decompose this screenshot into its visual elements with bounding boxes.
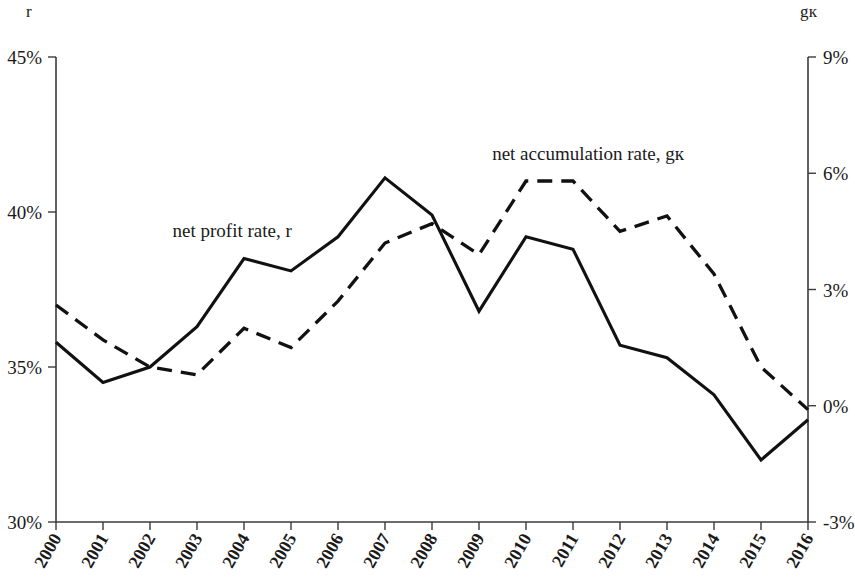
right-axis-tick-label: 6%	[823, 163, 849, 184]
x-axis-tick-label: 2000	[30, 530, 65, 571]
x-axis-tick-label: 2005	[265, 530, 300, 571]
left-axis-tick-label: 45%	[7, 47, 42, 68]
x-axis-tick-label: 2015	[735, 530, 770, 571]
x-axis-tick-label: 2008	[406, 530, 441, 571]
data-series-group	[56, 178, 808, 460]
x-axis-tick-label: 2012	[594, 530, 629, 571]
right-axis: -3%0%3%6%9%	[808, 47, 855, 533]
x-axis-tick-label: 2010	[500, 530, 535, 571]
x-axis-tick-label: 2011	[548, 530, 583, 570]
x-axis-tick-label: 2016	[782, 530, 817, 571]
x-axis-tick-label: 2002	[124, 530, 159, 571]
x-axis-tick-label: 2006	[312, 530, 347, 571]
series-line-solid	[56, 178, 808, 460]
left-axis-tick-label: 30%	[7, 512, 42, 533]
left-axis: 30%35%40%45%	[7, 47, 56, 533]
x-axis-tick-label: 2001	[77, 530, 112, 571]
line-chart-plot: 30%35%40%45% -3%0%3%6%9% 200020012002200…	[0, 0, 855, 578]
x-axis: 2000200120022003200420052006200720082009…	[30, 522, 817, 571]
right-axis-tick-label: 9%	[823, 47, 849, 68]
x-axis-tick-label: 2007	[359, 530, 394, 571]
right-axis-tick-label: 0%	[823, 396, 849, 417]
left-axis-tick-label: 35%	[7, 357, 42, 378]
series-annotation-label: net accumulation rate, gк	[492, 143, 685, 164]
right-axis-tick-label: 3%	[823, 280, 849, 301]
right-axis-tick-label: -3%	[823, 512, 855, 533]
x-axis-tick-label: 2003	[171, 530, 206, 571]
chart-container: r gк 30%35%40%45% -3%0%3%6%9% 2000200120…	[0, 0, 855, 578]
left-axis-tick-label: 40%	[7, 202, 42, 223]
x-axis-tick-label: 2004	[218, 530, 253, 571]
x-axis-tick-label: 2014	[688, 530, 723, 571]
x-axis-tick-label: 2009	[453, 530, 488, 571]
x-axis-tick-label: 2013	[641, 530, 676, 571]
series-annotation-label: net profit rate, r	[173, 220, 293, 241]
